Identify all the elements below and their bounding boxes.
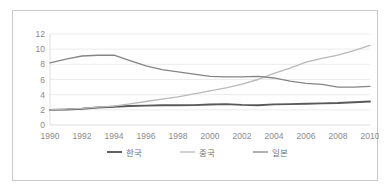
x-axis-tick-label: 1994 [105, 131, 124, 141]
chart-frame: 0246810121990199219941996199820002002200… [12, 10, 378, 181]
chart-plot-container: 0246810121990199219941996199820002002200… [13, 11, 377, 180]
legend-item-label[interactable]: 한국 [126, 148, 142, 158]
y-axis-tick-label: 10 [36, 44, 46, 54]
x-axis-tick-label: 2002 [233, 131, 252, 141]
y-axis-tick-label: 12 [36, 29, 46, 39]
x-axis-tick-label: 2000 [201, 131, 220, 141]
x-axis-tick-label: 1992 [73, 131, 92, 141]
series-line [50, 55, 370, 87]
x-axis-tick-label: 1990 [41, 131, 60, 141]
y-axis-tick-label: 4 [40, 90, 45, 100]
line-chart: 0246810121990199219941996199820002002200… [13, 11, 379, 182]
y-axis-tick-label: 6 [40, 75, 45, 85]
legend-item-label[interactable]: 일본 [272, 148, 288, 158]
x-axis-tick-label: 2004 [265, 131, 284, 141]
y-axis-tick-label: 8 [40, 59, 45, 69]
x-axis-tick-label: 2008 [329, 131, 348, 141]
x-axis-tick-label: 2010 [361, 131, 379, 141]
x-axis-tick-label: 1996 [137, 131, 156, 141]
y-axis-tick-label: 0 [40, 120, 45, 130]
series-line [50, 101, 370, 109]
x-axis-tick-label: 1998 [169, 131, 188, 141]
legend-item-label[interactable]: 중국 [199, 148, 215, 158]
x-axis-tick-label: 2006 [297, 131, 316, 141]
y-axis-tick-label: 2 [40, 105, 45, 115]
